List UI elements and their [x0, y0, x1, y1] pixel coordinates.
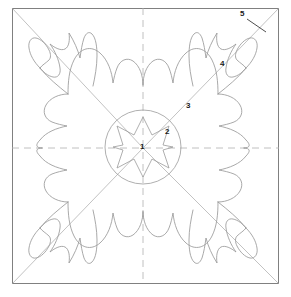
corner-leaf-top-left [29, 33, 97, 94]
pattern-drawing [0, 0, 291, 297]
callout-label-2: 2 [165, 128, 169, 136]
corner-leaf-bottom-left [29, 202, 97, 263]
corner-leaf-bottom-right [189, 202, 257, 263]
callout-label-3: 3 [186, 102, 190, 110]
callout-5-leader-line [247, 19, 266, 32]
callout-label-5: 5 [240, 10, 244, 18]
pattern-figure-canvas: 1 2 3 4 5 [0, 0, 291, 297]
callout-label-4: 4 [220, 60, 224, 68]
callout-label-1: 1 [140, 143, 144, 151]
diagonal-guide-lines [12, 8, 279, 284]
